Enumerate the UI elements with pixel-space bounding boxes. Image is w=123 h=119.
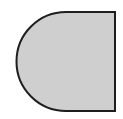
d-shape-figure — [0, 0, 123, 119]
semicircle-rectangle-shape — [17, 12, 116, 111]
